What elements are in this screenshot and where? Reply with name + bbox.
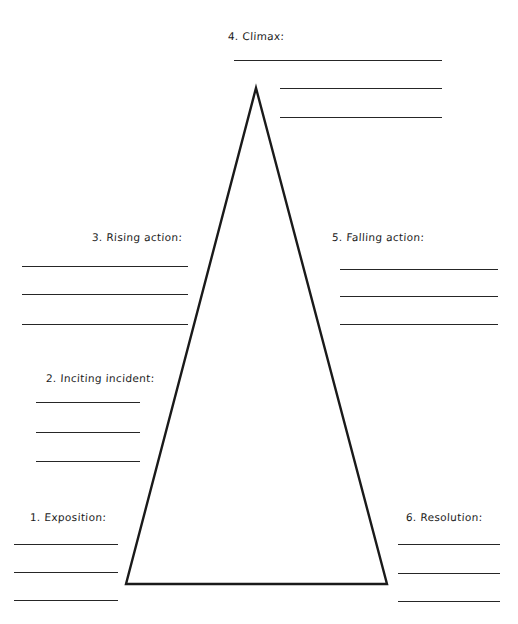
- write-line-resolution-3[interactable]: [398, 601, 500, 602]
- write-line-climax-3[interactable]: [280, 117, 442, 118]
- write-line-resolution-2[interactable]: [398, 573, 500, 574]
- plot-pyramid-triangle: [126, 88, 387, 584]
- write-line-falling-action-3[interactable]: [340, 324, 498, 325]
- write-line-rising-action-3[interactable]: [22, 324, 188, 325]
- section-label-exposition: 1. Exposition:: [30, 511, 107, 524]
- section-label-resolution: 6. Resolution:: [406, 511, 483, 524]
- write-line-rising-action-2[interactable]: [22, 294, 188, 295]
- write-line-falling-action-2[interactable]: [340, 296, 498, 297]
- write-line-climax-2[interactable]: [280, 88, 442, 89]
- write-line-falling-action-1[interactable]: [340, 269, 498, 270]
- write-line-resolution-1[interactable]: [398, 544, 500, 545]
- write-line-inciting-incident-3[interactable]: [36, 461, 140, 462]
- plot-diagram-worksheet: 1. Exposition:2. Inciting incident:3. Ri…: [0, 0, 518, 624]
- write-line-climax-1[interactable]: [234, 60, 442, 61]
- write-line-rising-action-1[interactable]: [22, 266, 188, 267]
- write-line-inciting-incident-1[interactable]: [36, 402, 140, 403]
- section-label-falling-action: 5. Falling action:: [332, 231, 425, 244]
- section-label-inciting-incident: 2. Inciting incident:: [46, 372, 155, 385]
- write-line-exposition-1[interactable]: [14, 544, 118, 545]
- plot-pyramid-svg: [0, 0, 518, 624]
- write-line-inciting-incident-2[interactable]: [36, 432, 140, 433]
- section-label-climax: 4. Climax:: [228, 30, 285, 43]
- section-label-rising-action: 3. Rising action:: [92, 231, 183, 244]
- write-line-exposition-2[interactable]: [14, 572, 118, 573]
- write-line-exposition-3[interactable]: [14, 600, 118, 601]
